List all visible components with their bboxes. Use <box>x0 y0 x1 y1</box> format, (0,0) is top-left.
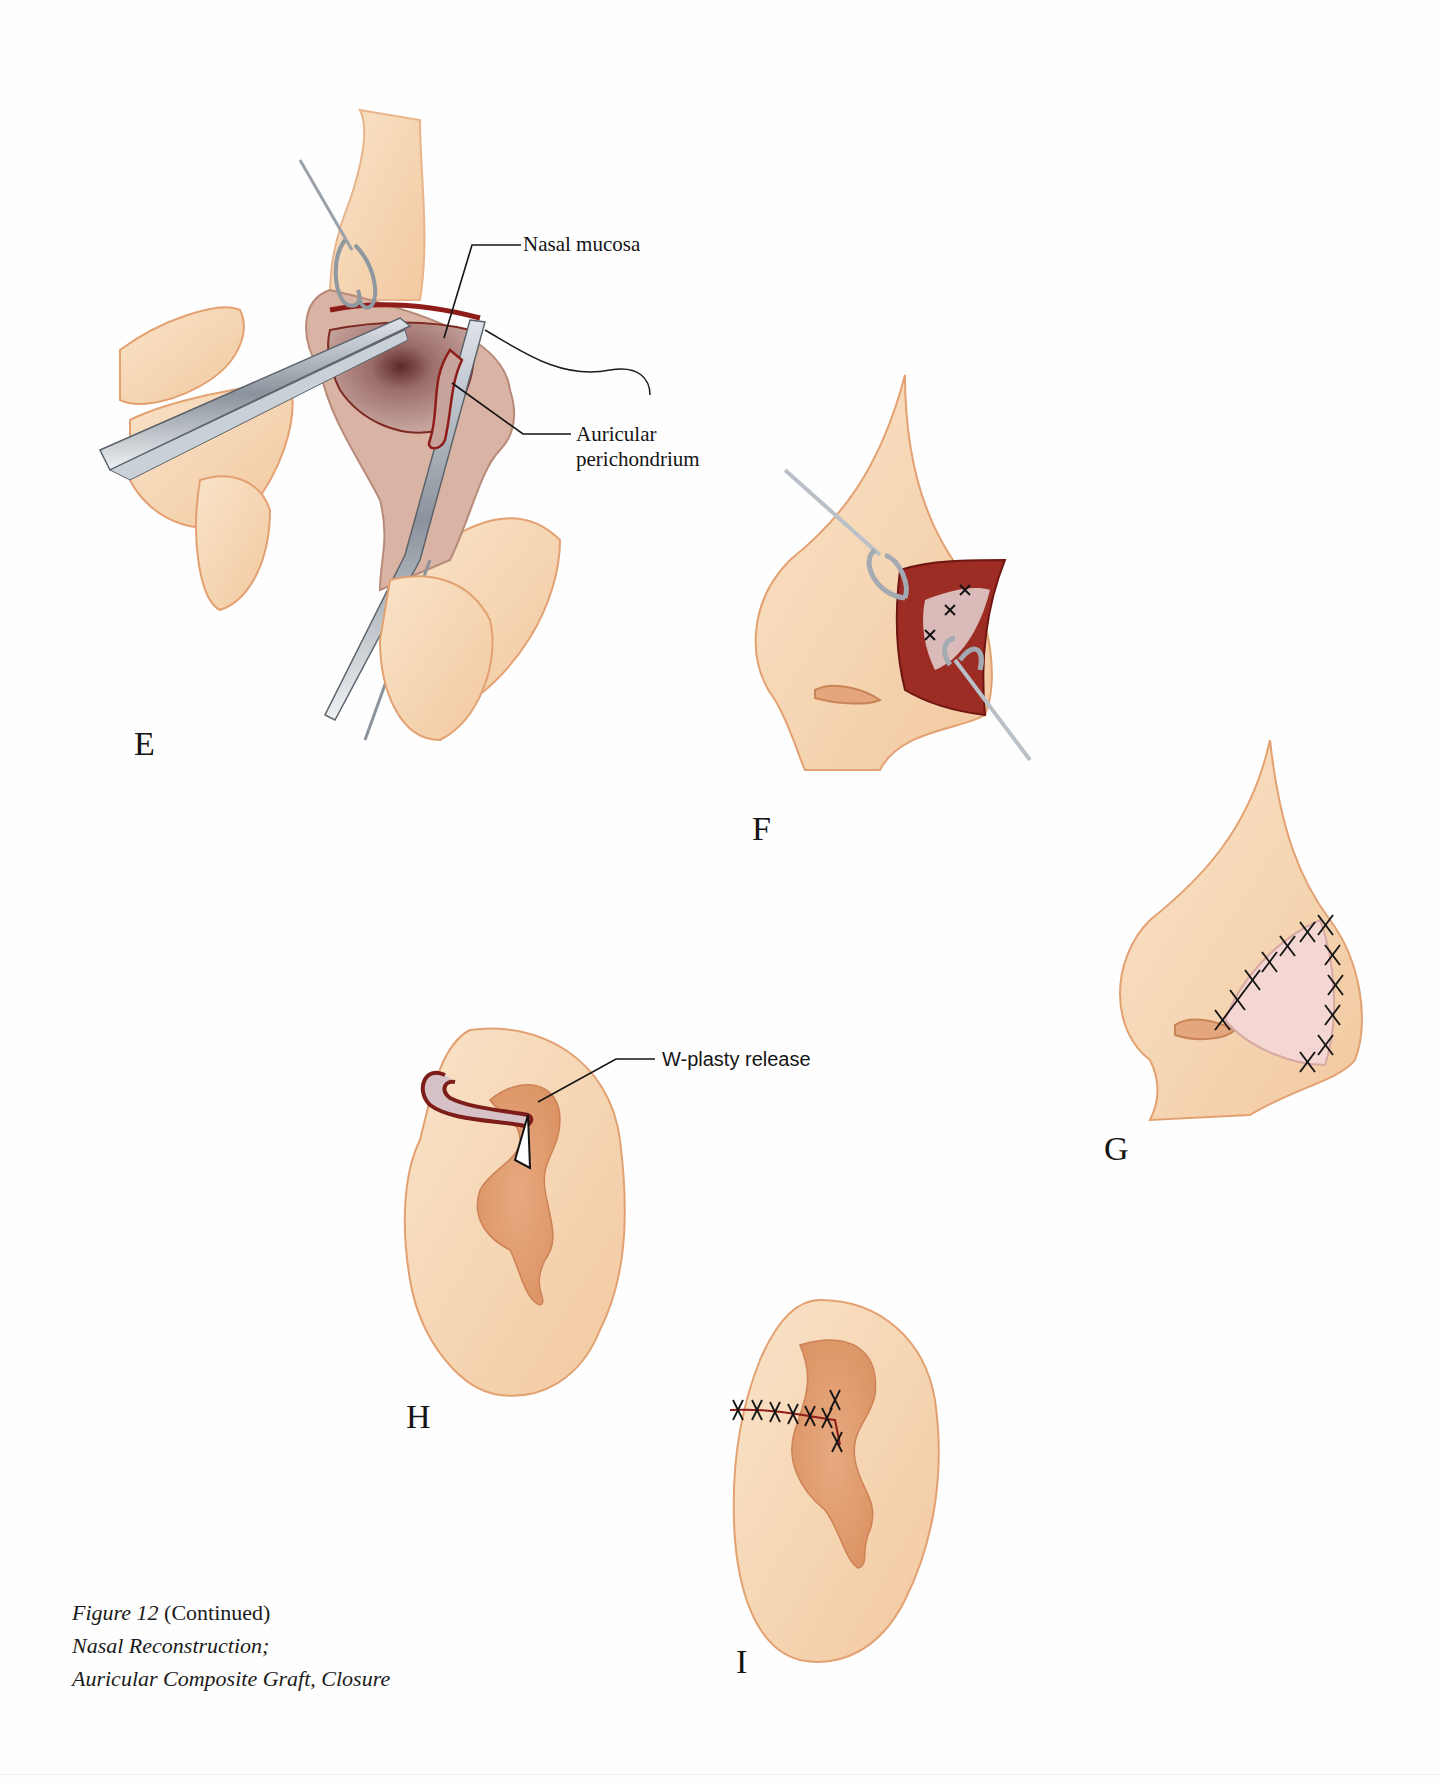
illustrations <box>0 0 1440 1784</box>
panel-g-illustration <box>1120 740 1362 1120</box>
caption-title-line-2: Auricular Composite Graft, Closure <box>72 1662 390 1695</box>
caption-title-line-1: Nasal Reconstruction; <box>72 1629 390 1662</box>
label-w-plasty-release: W-plasty release <box>662 1049 811 1069</box>
panel-f-illustration <box>756 375 1030 770</box>
figure-continued: (Continued) <box>164 1600 270 1625</box>
figure-page: Nasal mucosa Auricular perichondrium W-p… <box>0 0 1440 1784</box>
figure-caption: Figure 12 (Continued) Nasal Reconstructi… <box>72 1596 390 1695</box>
caption-line-1: Figure 12 (Continued) <box>72 1596 390 1629</box>
panel-letter-f: F <box>752 812 771 846</box>
panel-letter-e: E <box>134 727 155 761</box>
panel-h-illustration <box>405 1028 655 1395</box>
label-auricular-perichondrium-line2: perichondrium <box>576 449 700 470</box>
figure-number: Figure 12 <box>72 1600 159 1625</box>
panel-e-illustration <box>100 110 650 740</box>
panel-i-illustration <box>730 1300 939 1662</box>
panel-letter-i: I <box>736 1645 747 1679</box>
page-bottom-edge <box>0 1774 1440 1775</box>
label-auricular-perichondrium-line1: Auricular <box>576 424 656 445</box>
panel-letter-g: G <box>1104 1132 1129 1166</box>
label-nasal-mucosa: Nasal mucosa <box>523 234 640 255</box>
panel-letter-h: H <box>406 1400 431 1434</box>
